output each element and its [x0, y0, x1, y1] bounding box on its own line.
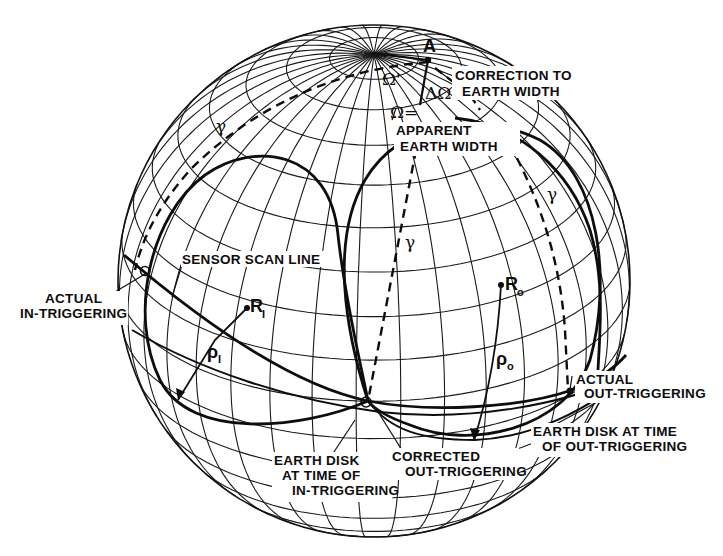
- label-disk-out-line2: OF OUT-TRIGGERING: [542, 439, 687, 454]
- label-rho-i: ρ: [207, 342, 218, 362]
- label-omega-equals: Ω=: [390, 102, 418, 122]
- point-a-marker: [425, 57, 431, 63]
- label-gamma-right: γ: [547, 184, 557, 204]
- label-corrected-line2: OUT-TRIGGERING: [405, 464, 527, 479]
- label-rho-i-sub: I: [218, 353, 221, 365]
- label-r-i-sub: I: [262, 308, 265, 320]
- graticule-line: [119, 55, 374, 340]
- label-actual-in-line1: ACTUAL: [45, 291, 102, 306]
- label-disk-in-line3: IN-TRIGGERING: [292, 483, 399, 498]
- label-actual-out-line1: ACTUAL: [576, 372, 633, 387]
- graticule-line: [134, 182, 615, 317]
- label-rho-o-sub: o: [507, 360, 514, 372]
- graticule-line: [261, 40, 374, 55]
- label-point-a: A: [423, 36, 436, 56]
- label-corrected-line1: CORRECTED: [392, 449, 480, 464]
- graticule-line: [178, 95, 570, 228]
- label-gamma-center: γ: [405, 232, 415, 252]
- label-rho-o: ρ: [496, 349, 507, 369]
- label-actual-out-line2: OUT-TRIGGERING: [584, 386, 706, 401]
- label-delta-omega: ΔΩ: [425, 83, 451, 103]
- label-correction-line2: EARTH WIDTH: [462, 84, 560, 99]
- label-disk-out-line1: EARTH DISK AT TIME: [533, 424, 677, 439]
- label-disk-in-line1: EARTH DISK: [274, 453, 360, 468]
- earth-disk-out-triggering: [344, 124, 600, 436]
- graticule-line: [123, 331, 624, 439]
- label-apparent-line2: EARTH WIDTH: [400, 139, 498, 154]
- label-gamma-left: γ: [216, 116, 226, 136]
- label-omega-prime: Ω': [382, 69, 401, 89]
- label-actual-in-line2: IN-TRIGGERING: [20, 306, 127, 321]
- sensor-scan-line: [124, 255, 626, 408]
- label-correction-line1: CORRECTION TO: [455, 68, 572, 83]
- label-disk-in-line2: AT TIME OF: [282, 468, 361, 483]
- graticule-line: [118, 283, 630, 401]
- leader-sensor-scan: [172, 265, 182, 297]
- celestial-sphere-diagram: A Ω' ΔΩ Ω= CORRECTION TO EARTH WIDTH APP…: [0, 0, 723, 556]
- label-apparent-line1: APPARENT: [396, 123, 472, 138]
- gamma-dashed-line-left: [135, 62, 428, 270]
- label-r-o-sub: o: [517, 286, 524, 298]
- label-sensor-scan-line: SENSOR SCAN LINE: [182, 252, 320, 267]
